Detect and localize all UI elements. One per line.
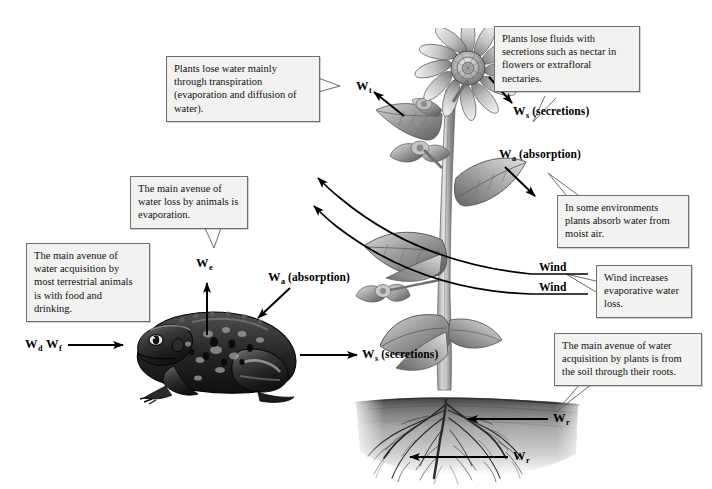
callout-wind-evaporative-loss-text: Wind increases evaporative water loss. — [604, 271, 684, 311]
callout-transpiration-text: Plants lose water mainly through transpi… — [174, 62, 312, 115]
label-animal-absorption-note: (absorption) — [288, 271, 350, 283]
callout-transpiration: Plants lose water mainly through transpi… — [166, 56, 320, 122]
label-animal-food: Wf — [46, 337, 61, 352]
label-roots-lower-symbol: W — [513, 449, 526, 463]
label-animal-secretions-note: (secretions) — [381, 348, 438, 360]
callout-animal-evaporation-text: The main avenue of water loss by animals… — [138, 182, 240, 222]
label-transpiration: Wt — [356, 79, 371, 94]
label-animal-secretions-subscript: s — [375, 354, 378, 363]
callout-plant-secretions-text: Plants lose fluids with secretions such … — [502, 32, 632, 85]
label-wind-upper: Wind — [539, 261, 566, 273]
label-plant-absorption-note: (absorption) — [519, 148, 581, 160]
callout-animal-acquisition-text: The main avenue of water acquisition by … — [34, 249, 142, 315]
callout-absorption-moist-air-text: In some environments plants absorb water… — [565, 201, 681, 241]
label-plant-absorption: Wa (absorption) — [499, 147, 581, 162]
soil-and-roots-illustration — [350, 396, 590, 489]
label-plant-secretions-subscript: s — [526, 111, 529, 120]
label-roots-upper-symbol: W — [553, 411, 566, 425]
figure-canvas: Plants lose water mainly through transpi… — [0, 0, 712, 489]
label-roots-upper-subscript: r — [566, 418, 570, 427]
label-plant-secretions-symbol: W — [513, 104, 526, 118]
label-animal-drinking: Wd — [25, 337, 42, 352]
label-animal-drinking-subscript: d — [38, 344, 43, 353]
callout-root-acquisition: The main avenue of water acquisition by … — [554, 333, 702, 386]
label-transpiration-subscript: t — [369, 86, 372, 95]
label-wind-lower: Wind — [539, 281, 566, 293]
callout-animal-evaporation: The main avenue of water loss by animals… — [130, 176, 248, 229]
callout-root-acquisition-text: The main avenue of water acquisition by … — [562, 339, 694, 379]
label-animal-evaporation-subscript: e — [209, 263, 213, 272]
label-animal-secretions: Ws (secretions) — [362, 347, 438, 362]
label-animal-food-subscript: f — [59, 344, 62, 353]
label-animal-absorption: Wa (absorption) — [268, 270, 350, 285]
label-plant-absorption-symbol: W — [499, 147, 512, 161]
label-plant-absorption-subscript: a — [512, 154, 516, 163]
label-plant-secretions-note: (secretions) — [532, 105, 589, 117]
label-animal-drinking-symbol: W — [25, 337, 38, 351]
callout-plant-secretions: Plants lose fluids with secretions such … — [494, 26, 640, 92]
label-animal-absorption-symbol: W — [268, 270, 281, 284]
label-roots-lower: Wr — [513, 449, 529, 464]
label-roots-lower-subscript: r — [526, 456, 530, 465]
label-animal-evaporation: We — [196, 256, 212, 271]
animal-illustration — [122, 300, 312, 408]
label-roots-upper: Wr — [553, 411, 569, 426]
label-transpiration-symbol: W — [356, 79, 369, 93]
label-animal-secretions-symbol: W — [362, 347, 375, 361]
label-plant-secretions: Ws (secretions) — [513, 104, 589, 119]
callout-wind-evaporative-loss: Wind increases evaporative water loss. — [596, 265, 692, 318]
label-animal-food-symbol: W — [46, 337, 59, 351]
callout-animal-acquisition: The main avenue of water acquisition by … — [26, 243, 150, 322]
label-animal-evaporation-symbol: W — [196, 256, 209, 270]
callout-absorption-moist-air: In some environments plants absorb water… — [557, 195, 689, 248]
label-animal-absorption-subscript: a — [281, 277, 285, 286]
